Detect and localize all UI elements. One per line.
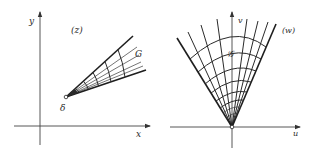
wedge-region-script-g (177, 19, 276, 129)
y-axis-label: y (28, 16, 35, 26)
vertex-point (64, 95, 68, 99)
left-boundary-ray (177, 38, 232, 127)
w-plane-panel: v u (w) 𝒢 (170, 12, 300, 148)
z-plane-label: (z) (71, 25, 83, 35)
origin-point (230, 125, 234, 129)
x-axis-label: x (136, 129, 141, 139)
vertex-label: δ (60, 103, 65, 113)
v-axis-label: v (238, 16, 243, 25)
wedge-region-g (64, 36, 146, 99)
w-plane-label: (w) (282, 26, 295, 35)
z-plane-panel: y x (z) δ G (14, 12, 150, 145)
u-axis-label: u (293, 129, 298, 138)
region-label-g: G (135, 49, 142, 59)
conformal-mapping-diagram: y x (z) δ G v u (w) (0, 0, 312, 154)
region-label-script-g: 𝒢 (227, 49, 235, 59)
